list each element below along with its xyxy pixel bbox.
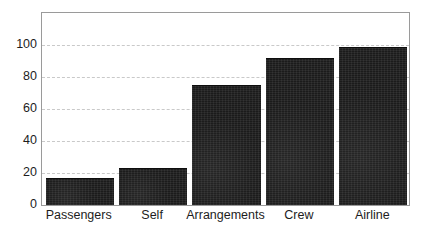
y-axis-tick-80: 80 [0, 70, 37, 83]
plot-frame [41, 12, 410, 206]
bar-crew [266, 58, 334, 205]
y-axis-tick-40: 40 [0, 134, 37, 147]
bar-arrangements [192, 85, 260, 205]
bar-airline [339, 47, 407, 205]
bar-chart: 0 20 40 60 80 100 PassengersSelfArrangem… [0, 0, 426, 238]
plot-area [42, 13, 409, 205]
y-axis-tick-60: 60 [0, 102, 37, 115]
bar-passengers [46, 178, 114, 205]
y-axis-tick-100: 100 [0, 38, 37, 51]
y-axis-tick-20: 20 [0, 166, 37, 179]
x-axis-label-airline: Airline [302, 209, 426, 223]
bar-self [119, 168, 187, 205]
